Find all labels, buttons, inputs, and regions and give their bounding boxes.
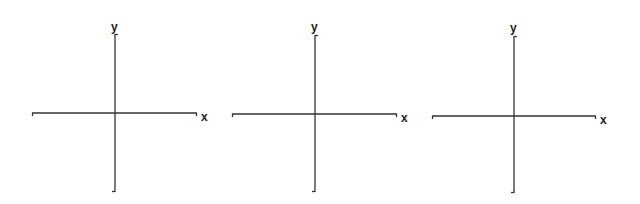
y-axis-label: y xyxy=(311,20,318,34)
x-axis-label: x xyxy=(600,113,607,127)
x-axis-label: x xyxy=(201,110,208,124)
axes-2: x y xyxy=(232,20,408,192)
axes-3: x y xyxy=(432,21,607,193)
y-axis-label: y xyxy=(510,21,517,35)
y-axis-label: y xyxy=(111,20,118,34)
x-axis-label: x xyxy=(401,111,408,125)
coordinate-axes-diagram: x y x y x y xyxy=(0,0,640,204)
axes-1: x y xyxy=(32,20,208,192)
